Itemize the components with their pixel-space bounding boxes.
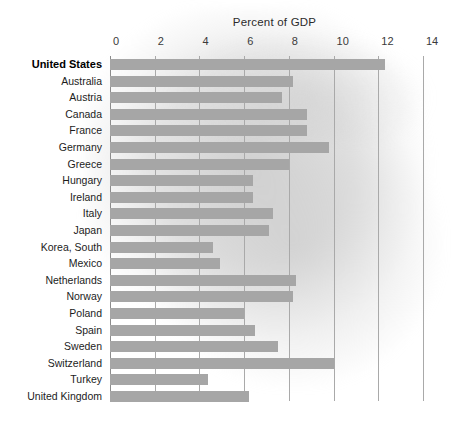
- category-axis-labels: United StatesAustraliaAustriaCanadaFranc…: [0, 56, 106, 401]
- bar-row: [110, 322, 423, 339]
- bar: [110, 341, 278, 352]
- bar-row: [110, 288, 423, 305]
- bar-row: [110, 73, 423, 90]
- category-label: Japan: [0, 222, 102, 239]
- bar: [110, 275, 296, 286]
- x-tick-label: 2: [158, 35, 164, 47]
- category-label: Ireland: [0, 189, 102, 206]
- bar: [110, 391, 249, 402]
- bar-row: [110, 205, 423, 222]
- bar-row: [110, 239, 423, 256]
- x-tick-label: 4: [202, 35, 208, 47]
- bar: [110, 308, 244, 319]
- category-label: United Kingdom: [0, 388, 102, 405]
- bar-row: [110, 139, 423, 156]
- category-label: Mexico: [0, 255, 102, 272]
- category-label: Sweden: [0, 338, 102, 355]
- bar: [110, 76, 293, 87]
- chart-title: Percent of GDP: [0, 16, 473, 28]
- bar-row: [110, 371, 423, 388]
- category-label: Norway: [0, 288, 102, 305]
- category-label: Spain: [0, 322, 102, 339]
- bar: [110, 325, 255, 336]
- bar: [110, 59, 385, 70]
- bar: [110, 242, 213, 253]
- category-label: United States: [0, 56, 102, 73]
- category-label: Germany: [0, 139, 102, 156]
- category-label: Poland: [0, 305, 102, 322]
- bar-row: [110, 222, 423, 239]
- bar: [110, 175, 253, 186]
- category-label: Austria: [0, 89, 102, 106]
- bar: [110, 192, 253, 203]
- x-tick-label: 8: [292, 35, 298, 47]
- bar-row: [110, 56, 423, 73]
- bar: [110, 374, 208, 385]
- category-label: Hungary: [0, 172, 102, 189]
- x-tick-label: 14: [426, 35, 438, 47]
- bar-row: [110, 355, 423, 372]
- chart-figure: Percent of GDP United StatesAustraliaAus…: [0, 0, 473, 421]
- bar-row: [110, 255, 423, 272]
- plot-area: 02468101214: [110, 56, 423, 401]
- bar: [110, 258, 220, 269]
- category-label: Italy: [0, 205, 102, 222]
- bar-row: [110, 89, 423, 106]
- bar: [110, 291, 293, 302]
- x-tick-label: 10: [337, 35, 349, 47]
- category-label: Korea, South: [0, 239, 102, 256]
- category-label: Canada: [0, 106, 102, 123]
- bar: [110, 125, 307, 136]
- category-label: France: [0, 122, 102, 139]
- bar-row: [110, 172, 423, 189]
- bar: [110, 142, 329, 153]
- bar-row: [110, 338, 423, 355]
- bar: [110, 208, 273, 219]
- x-tick-label: 0: [113, 35, 119, 47]
- bar: [110, 109, 307, 120]
- bar: [110, 358, 334, 369]
- chart-title-text: Percent of GDP: [233, 16, 316, 28]
- category-label: Turkey: [0, 371, 102, 388]
- category-label: Greece: [0, 156, 102, 173]
- gridline-14: [423, 56, 424, 401]
- category-label: Switzerland: [0, 355, 102, 372]
- bar-row: [110, 156, 423, 173]
- bar: [110, 225, 269, 236]
- bar-row: [110, 272, 423, 289]
- bar-row: [110, 122, 423, 139]
- bar: [110, 159, 289, 170]
- bar-row: [110, 189, 423, 206]
- bar: [110, 92, 282, 103]
- category-label: Netherlands: [0, 272, 102, 289]
- x-tick-label: 6: [247, 35, 253, 47]
- bar-row: [110, 388, 423, 405]
- x-tick-label: 12: [381, 35, 393, 47]
- bar-row: [110, 305, 423, 322]
- category-label: Australia: [0, 73, 102, 90]
- bar-row: [110, 106, 423, 123]
